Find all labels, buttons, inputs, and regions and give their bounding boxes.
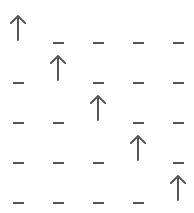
dash-mark [13, 82, 24, 84]
grid-cell [40, 102, 80, 142]
dash-mark [13, 122, 24, 124]
grid-cell [40, 182, 80, 213]
grid-cell [0, 142, 40, 182]
up-arrow-icon [48, 54, 68, 82]
up-arrow-icon [128, 134, 148, 162]
dash-mark [173, 42, 184, 44]
dash-mark [93, 202, 104, 204]
dash-mark [13, 162, 24, 164]
dash-mark [13, 202, 24, 204]
grid-cell [120, 22, 160, 62]
dash-mark [53, 202, 64, 204]
grid-cell [80, 22, 120, 62]
grid-cell [80, 142, 120, 182]
grid-cell [120, 142, 160, 182]
up-arrow-icon [168, 174, 188, 202]
grid-cell [0, 102, 40, 142]
dash-mark [133, 82, 144, 84]
dash-mark [133, 122, 144, 124]
grid-cell [120, 62, 160, 102]
grid-cell [40, 142, 80, 182]
grid-cell [80, 182, 120, 213]
grid-cell [160, 182, 194, 213]
grid-cell [0, 182, 40, 213]
grid-cell [40, 62, 80, 102]
grid-cell [0, 22, 40, 62]
grid-cell [160, 22, 194, 62]
grid-cell [0, 62, 40, 102]
dash-mark [173, 162, 184, 164]
grid-cell [160, 62, 194, 102]
dash-mark [53, 122, 64, 124]
grid-cell [80, 102, 120, 142]
dash-mark [133, 202, 144, 204]
grid-cell [160, 102, 194, 142]
dash-mark [93, 82, 104, 84]
dash-mark [93, 42, 104, 44]
up-arrow-icon [88, 94, 108, 122]
dash-mark [133, 42, 144, 44]
up-arrow-icon [8, 14, 28, 42]
dash-mark [93, 162, 104, 164]
dash-mark [173, 82, 184, 84]
dash-mark [53, 162, 64, 164]
grid-cell [120, 182, 160, 213]
dash-mark [173, 122, 184, 124]
dash-mark [53, 42, 64, 44]
